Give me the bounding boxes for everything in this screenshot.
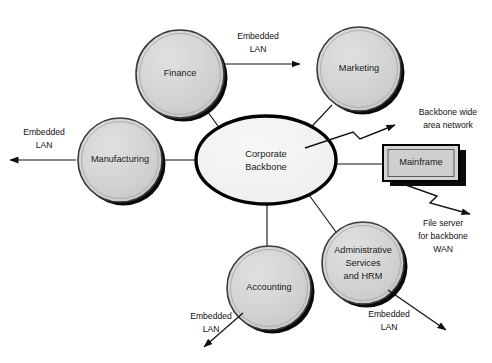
corporate-backbone-label-line1: Corporate bbox=[245, 148, 287, 159]
file-server-wan-label-line1: File server bbox=[423, 218, 463, 228]
backbone-wan-label-line2: area network bbox=[423, 120, 473, 130]
file-server-wan-zigzag-arrow bbox=[403, 184, 470, 214]
finance-label: Finance bbox=[164, 68, 197, 78]
node-finance[interactable]: Finance bbox=[136, 30, 228, 122]
edge-accounting-embedded-lan: Embedded LAN bbox=[190, 311, 243, 347]
marketing-label: Marketing bbox=[339, 63, 379, 73]
file-server-wan-label-line3: WAN bbox=[433, 244, 453, 254]
edge-file-server-wan: File server for backbone WAN bbox=[403, 184, 470, 254]
accounting-lan-label-line1: Embedded bbox=[190, 311, 232, 321]
manufacturing-label: Manufacturing bbox=[91, 154, 149, 164]
edge-finance-embedded-lan: Embedded LAN bbox=[224, 31, 300, 64]
node-corporate-backbone[interactable]: Corporate Backbone bbox=[196, 116, 336, 204]
file-server-wan-label-line2: for backbone bbox=[418, 231, 468, 241]
accounting-lan-label-line2: LAN bbox=[203, 324, 220, 334]
manufacturing-lan-label-line1: Embedded bbox=[23, 127, 65, 137]
manufacturing-lan-label-line2: LAN bbox=[36, 140, 53, 150]
finance-lan-label-line1: Embedded bbox=[237, 31, 279, 41]
admin-services-label-line3: and HRM bbox=[344, 271, 383, 281]
network-diagram: Corporate Backbone Finance Marketing Man… bbox=[0, 0, 492, 363]
mainframe-label: Mainframe bbox=[399, 157, 442, 167]
admin-lan-label-line1: Embedded bbox=[368, 309, 410, 319]
accounting-label: Accounting bbox=[246, 282, 291, 292]
diagram-canvas: Corporate Backbone Finance Marketing Man… bbox=[0, 0, 492, 363]
backbone-wan-label-line1: Backbone wide bbox=[419, 107, 478, 117]
admin-lan-label-line2: LAN bbox=[381, 322, 398, 332]
corporate-backbone-shape bbox=[196, 116, 336, 204]
corporate-backbone-label-line2: Backbone bbox=[245, 161, 287, 172]
node-manufacturing[interactable]: Manufacturing bbox=[78, 118, 166, 206]
edge-manufacturing-embedded-lan: Embedded LAN bbox=[10, 127, 76, 160]
admin-services-label-line1: Administrative bbox=[334, 245, 392, 255]
admin-services-label-line2: Services bbox=[345, 258, 381, 268]
node-mainframe[interactable]: Mainframe bbox=[383, 145, 466, 186]
finance-lan-label-line2: LAN bbox=[250, 44, 267, 54]
node-marketing[interactable]: Marketing bbox=[317, 27, 405, 115]
node-accounting[interactable]: Accounting bbox=[227, 246, 315, 334]
